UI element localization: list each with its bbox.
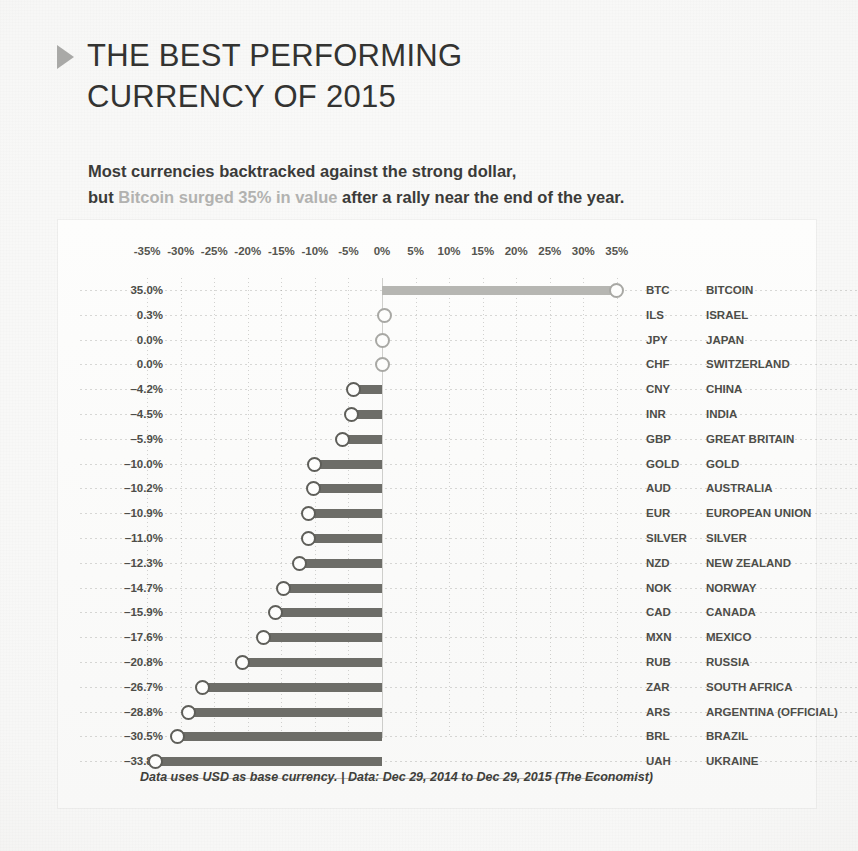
x-axis-tick-neg15: -15% <box>268 245 295 257</box>
row-bar <box>275 608 382 617</box>
row-bar <box>242 658 382 667</box>
row-value-label: –10.0% <box>58 452 163 477</box>
row-country-label: SILVER <box>706 526 747 551</box>
row-value-label: –10.9% <box>58 501 163 526</box>
row-marker <box>181 705 196 720</box>
row-value-label: –20.8% <box>58 650 163 675</box>
row-value-label: –4.2% <box>58 377 163 402</box>
x-axis-tick-15: 15% <box>471 245 494 257</box>
x-axis-tick-25: 25% <box>538 245 561 257</box>
row-value-label: –17.6% <box>58 625 163 650</box>
row-value-label: –15.9% <box>58 600 163 625</box>
row-country-label: SWITZERLAND <box>706 352 790 377</box>
subtitle-lead: but <box>88 188 118 206</box>
row-value-label: 0.3% <box>58 303 163 328</box>
row-bar <box>155 757 382 766</box>
chart-row: –26.7%ZARSOUTH AFRICA <box>58 675 816 700</box>
chart-card: -35%-30%-25%-20%-15%-10%-5%0%5%10%15%20%… <box>58 220 816 808</box>
row-currency-code: INR <box>646 402 666 427</box>
row-currency-code: ILS <box>646 303 664 328</box>
triangle-right-icon <box>57 45 74 69</box>
x-axis-tick-neg5: -5% <box>338 245 358 257</box>
row-currency-code: NOK <box>646 576 672 601</box>
chart-row: –12.3%NZDNEW ZEALAND <box>58 551 816 576</box>
row-country-label: AUSTRALIA <box>706 476 772 501</box>
row-country-label: CANADA <box>706 600 756 625</box>
row-marker <box>268 605 283 620</box>
row-value-label: 0.0% <box>58 328 163 353</box>
chart-row: –5.9%GBPGREAT BRITAIN <box>58 427 816 452</box>
row-currency-code: NZD <box>646 551 670 576</box>
row-bar <box>382 286 617 295</box>
row-marker <box>346 382 361 397</box>
subtitle-tail: after a rally near the end of the year. <box>337 188 624 206</box>
row-bar <box>308 534 382 543</box>
x-axis-tick-neg25: -25% <box>201 245 228 257</box>
chart-row: –11.0%SILVERSILVER <box>58 526 816 551</box>
row-bar <box>177 732 382 741</box>
row-marker <box>377 308 392 323</box>
row-marker <box>256 630 271 645</box>
row-marker <box>276 581 291 596</box>
row-currency-code: CHF <box>646 352 670 377</box>
chart-row: 0.0%CHFSWITZERLAND <box>58 352 816 377</box>
row-country-label: BRAZIL <box>706 724 748 749</box>
row-marker <box>148 754 163 769</box>
row-value-label: –28.8% <box>58 700 163 725</box>
row-currency-code: MXN <box>646 625 672 650</box>
x-axis-tick-neg30: -30% <box>167 245 194 257</box>
row-marker <box>307 457 322 472</box>
chart-rows: 35.0%BTCBITCOIN0.3%ILSISRAEL0.0%JPYJAPAN… <box>58 268 816 746</box>
row-value-label: –12.3% <box>58 551 163 576</box>
row-country-label: ISRAEL <box>706 303 748 328</box>
row-bar <box>314 484 382 493</box>
chart-row: 0.0%JPYJAPAN <box>58 328 816 353</box>
x-axis-tick-neg35: -35% <box>134 245 161 257</box>
row-bar <box>315 460 382 469</box>
row-country-label: JAPAN <box>706 328 744 353</box>
chart-row: –30.5%BRLBRAZIL <box>58 724 816 749</box>
row-marker <box>235 655 250 670</box>
x-axis-tick-neg20: -20% <box>234 245 261 257</box>
row-country-label: UKRAINE <box>706 749 758 774</box>
chart-row: –4.2%CNYCHINA <box>58 377 816 402</box>
row-currency-code: CAD <box>646 600 671 625</box>
row-country-label: NEW ZEALAND <box>706 551 791 576</box>
x-axis-tick-labels: -35%-30%-25%-20%-15%-10%-5%0%5%10%15%20%… <box>58 245 816 261</box>
row-marker <box>301 531 316 546</box>
chart-row: –15.9%CADCANADA <box>58 600 816 625</box>
row-country-label: MEXICO <box>706 625 751 650</box>
row-marker <box>375 333 390 348</box>
x-axis-tick-0: 0% <box>374 245 391 257</box>
row-country-label: RUSSIA <box>706 650 749 675</box>
chart-row: –20.8%RUBRUSSIA <box>58 650 816 675</box>
row-currency-code: EUR <box>646 501 670 526</box>
row-bar <box>283 584 382 593</box>
row-value-label: –4.5% <box>58 402 163 427</box>
x-axis-tick-30: 30% <box>572 245 595 257</box>
chart-row: 0.3%ILSISRAEL <box>58 303 816 328</box>
row-marker <box>375 357 390 372</box>
x-axis-tick-20: 20% <box>505 245 528 257</box>
chart-row: –10.0%GOLDGOLD <box>58 452 816 477</box>
row-value-label: –26.7% <box>58 675 163 700</box>
title-row: THE BEST PERFORMING CURRENCY OF 2015 <box>57 36 757 117</box>
row-bar <box>189 708 382 717</box>
row-marker <box>609 283 624 298</box>
row-country-label: EUROPEAN UNION <box>706 501 811 526</box>
row-marker <box>301 506 316 521</box>
chart-row: –17.6%MXNMEXICO <box>58 625 816 650</box>
row-country-label: GREAT BRITAIN <box>706 427 794 452</box>
row-currency-code: CNY <box>646 377 670 402</box>
chart-row: –10.9%EUREUROPEAN UNION <box>58 501 816 526</box>
row-bar <box>309 509 382 518</box>
row-currency-code: SILVER <box>646 526 687 551</box>
row-country-label: ARGENTINA (OFFICIAL) <box>706 700 838 725</box>
row-country-label: BITCOIN <box>706 278 753 303</box>
chart-row: 35.0%BTCBITCOIN <box>58 278 816 303</box>
row-marker <box>344 407 359 422</box>
x-axis-tick-5: 5% <box>407 245 424 257</box>
chart-footnote: Data uses USD as base currency. | Data: … <box>140 770 653 784</box>
page-title: THE BEST PERFORMING CURRENCY OF 2015 <box>87 36 462 117</box>
row-currency-code: BTC <box>646 278 670 303</box>
